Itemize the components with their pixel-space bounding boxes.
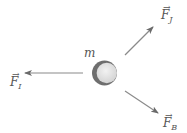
force-subscript: I	[18, 82, 21, 91]
force-arrow-j	[125, 27, 153, 55]
force-arrow-b	[125, 91, 158, 113]
force-label-b: F→B	[163, 117, 177, 129]
vector-arrow-icon: →	[163, 3, 171, 12]
force-label-i: F→I	[10, 76, 22, 88]
vector-arrow-icon: →	[165, 111, 173, 120]
force-subscript: B	[171, 123, 177, 132]
mass-ball	[92, 61, 117, 86]
mass-label: m	[84, 47, 95, 59]
free-body-diagram	[0, 0, 187, 133]
force-subscript: J	[169, 15, 172, 24]
vector-arrow-icon: →	[12, 70, 20, 79]
force-label-j: F→J	[161, 9, 173, 21]
